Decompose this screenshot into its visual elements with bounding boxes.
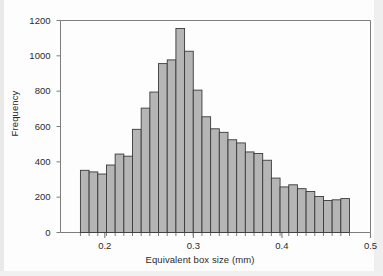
histogram-bar [289,185,298,233]
histogram-bar [341,199,350,233]
histogram-bar [254,154,263,233]
histogram-bar [315,196,324,232]
y-axis-ticks [57,21,61,233]
x-tick-label: 0.3 [178,241,208,250]
histogram-bar [211,129,220,233]
histogram-bar [115,154,124,232]
x-tick-label: 0.4 [267,241,297,250]
x-axis-title: Equivalent box size (mm) [60,254,340,265]
histogram-bars [80,28,349,232]
histogram-bar [332,200,341,233]
histogram-bar [167,60,176,233]
histogram-bar [80,170,89,232]
y-tick-label: 400 [17,157,51,166]
histogram-chart: 020040060080010001200 0.20.30.40.5 Frequ… [0,0,383,276]
y-axis-title: Frequency [9,78,20,150]
histogram-bar [193,90,202,232]
histogram-bar [237,143,246,233]
histogram-bar [263,160,272,232]
x-tick-label: 0.2 [90,241,120,250]
histogram-bar [133,129,142,232]
histogram-bar [176,28,185,232]
histogram-bar [124,156,133,232]
histogram-bar [280,187,289,233]
histogram-bar [185,51,194,232]
y-tick-label: 1200 [17,16,51,25]
histogram-bar [202,117,211,233]
histogram-bar [245,152,254,233]
histogram-bar [150,92,159,232]
histogram-bar [297,189,306,233]
histogram-bar [219,132,228,232]
y-tick-label: 1000 [17,51,51,60]
y-tick-label: 200 [17,192,51,201]
histogram-bar [159,64,168,233]
histogram-bar [271,178,280,232]
histogram-bar [306,192,315,233]
x-axis-ticks [80,233,370,239]
histogram-bar [89,172,98,233]
histogram-bar [98,174,107,232]
x-tick-label: 0.5 [356,241,383,250]
y-tick-label: 600 [17,122,51,131]
histogram-bar [106,165,115,232]
histogram-bar [141,108,150,232]
histogram-bar [228,140,237,233]
histogram-bar [323,201,332,233]
plot-area [0,0,383,276]
y-tick-label: 0 [17,228,51,237]
y-tick-label: 800 [17,86,51,95]
